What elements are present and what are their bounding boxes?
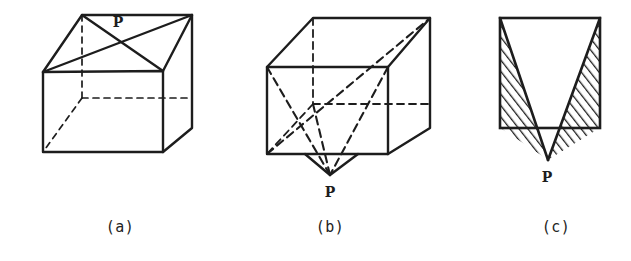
- caption-a: (a): [106, 218, 135, 236]
- panel-b-cube: [267, 18, 430, 175]
- point-label-p-a: P: [113, 14, 124, 30]
- point-label-p-b: P: [325, 184, 336, 200]
- caption-b: (b): [316, 218, 345, 236]
- caption-c: (c): [542, 218, 571, 236]
- panel-c-elevation: [500, 18, 600, 160]
- panel-a-cube: [43, 15, 192, 152]
- panel-a-solid-edges: [43, 15, 192, 152]
- point-label-p-c: P: [542, 169, 553, 185]
- panel-a-hidden-edges: [43, 15, 192, 152]
